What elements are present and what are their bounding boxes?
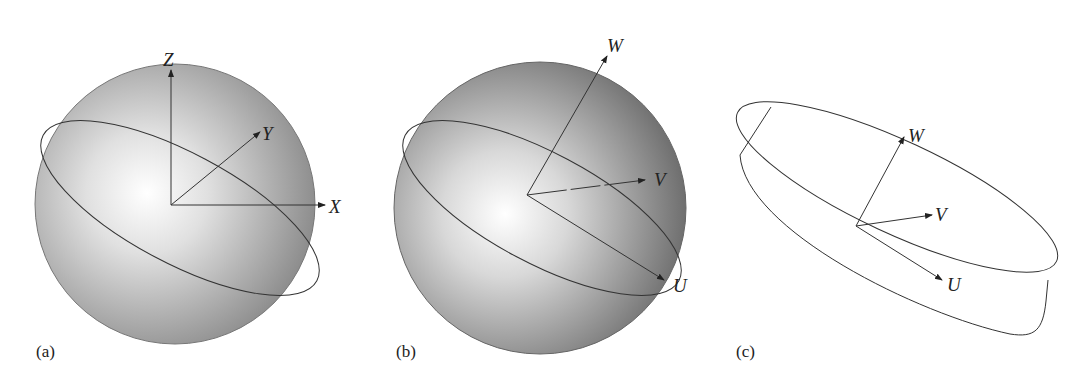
w-axis-label-b: W <box>607 35 625 56</box>
w-axis-label-c: W <box>908 125 926 146</box>
panel-b: W V U (b) <box>379 35 704 361</box>
v-axis-arrow-c <box>856 215 932 226</box>
disk-top-ellipse <box>718 71 1076 303</box>
panel-label-c: (c) <box>736 342 755 361</box>
u-axis-label-c: U <box>947 274 962 295</box>
u-axis-label-b: U <box>673 275 688 296</box>
w-axis-arrow-c <box>856 137 904 226</box>
disk-bottom-arc <box>740 155 1046 335</box>
sphere-b <box>394 62 686 354</box>
panel-label-a: (a) <box>36 342 55 361</box>
z-axis-label: Z <box>163 49 174 70</box>
u-axis-arrow-c <box>856 226 942 280</box>
disk-right-side <box>1046 280 1048 301</box>
x-axis-label: X <box>328 196 342 217</box>
panel-label-b: (b) <box>396 342 416 361</box>
panel-c <box>718 71 1076 335</box>
disk-left-side <box>740 107 771 155</box>
panel-c-labels: W V U (c) <box>736 125 962 361</box>
figure-canvas: Z Y X (a) W V U (b) W V U (c) <box>0 0 1084 378</box>
v-axis-label-c: V <box>935 204 949 225</box>
panel-a: Z Y X (a) <box>17 49 342 361</box>
